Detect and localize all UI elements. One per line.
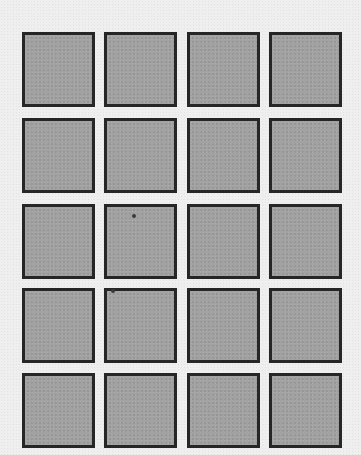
grid-tile-r2-c1: [22, 118, 95, 193]
grid-tile-r3-c3: [187, 204, 260, 279]
grid-tile-r4-c1: [22, 288, 95, 363]
grid-tile-r5-c2: [104, 373, 177, 448]
grid-tile-r3-c4: [269, 204, 342, 279]
grid-tile-r2-c2: [104, 118, 177, 193]
tile-grid-canvas: [0, 0, 361, 455]
grid-tile-r1-c1: [22, 32, 95, 107]
grid-tile-r5-c4: [269, 373, 342, 448]
grid-tile-r3-c1: [22, 204, 95, 279]
grid-tile-r2-c4: [269, 118, 342, 193]
speck-artifact: [111, 289, 115, 293]
grid-tile-r5-c1: [22, 373, 95, 448]
grid-tile-r3-c2: [104, 204, 177, 279]
grid-tile-r4-c4: [269, 288, 342, 363]
grid-tile-r4-c3: [187, 288, 260, 363]
speck-artifact: [132, 214, 136, 218]
grid-tile-r5-c3: [187, 373, 260, 448]
grid-tile-r1-c2: [104, 32, 177, 107]
grid-tile-r2-c3: [187, 118, 260, 193]
grid-tile-r1-c3: [187, 32, 260, 107]
grid-tile-r1-c4: [269, 32, 342, 107]
grid-tile-r4-c2: [104, 288, 177, 363]
